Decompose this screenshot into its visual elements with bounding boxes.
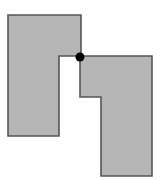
polygon-diagram (0, 0, 167, 180)
right-polygon (80, 56, 152, 176)
joint-point (76, 53, 85, 62)
left-polygon (8, 15, 81, 136)
diagram-canvas (0, 0, 167, 180)
